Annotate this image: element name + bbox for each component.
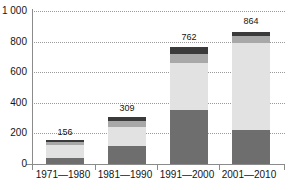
bar-total-1981-1990: 309 — [97, 104, 157, 113]
bar-total-1991-2000: 762 — [159, 33, 219, 42]
bar-total-1971-1980: 156 — [35, 128, 95, 137]
bar-segment-1 — [108, 146, 146, 164]
bar-segment-2 — [108, 127, 146, 146]
y-tick-1000: 1 000 — [0, 6, 27, 16]
y-tick-200: 200 — [0, 128, 27, 138]
bar-1991-2000[interactable] — [170, 47, 208, 164]
bar-1981-1990[interactable] — [108, 117, 146, 164]
bar-2001-2010[interactable] — [232, 32, 270, 164]
y-axis-line — [32, 9, 33, 166]
gridline-1000 — [32, 11, 285, 12]
y-tick-600: 600 — [0, 67, 27, 77]
y-tick-0: 0 — [0, 159, 27, 169]
bar-segment-1 — [170, 110, 208, 164]
stacked-bar-chart: 1 000 800 600 400 200 0 156 309 762 864 … — [0, 0, 289, 190]
bar-segment-2 — [232, 43, 270, 129]
bar-total-2001-2010: 864 — [221, 17, 281, 26]
bar-segment-2 — [170, 63, 208, 111]
bar-segment-3 — [232, 36, 270, 43]
bar-segment-3 — [170, 54, 208, 63]
y-tick-800: 800 — [0, 37, 27, 47]
bar-1971-1980[interactable] — [46, 140, 84, 164]
x-axis-line — [26, 164, 285, 165]
y-tick-400: 400 — [0, 98, 27, 108]
bar-segment-2 — [46, 145, 84, 158]
bar-segment-1 — [232, 130, 270, 164]
x-category-2001-2010: 2001—2010 — [213, 169, 285, 180]
